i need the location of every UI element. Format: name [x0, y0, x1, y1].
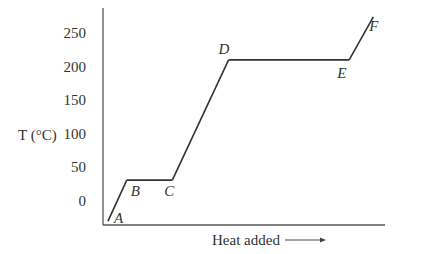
curve-segment-CD — [172, 60, 228, 180]
point-label-B: B — [131, 183, 140, 199]
point-label-D: D — [218, 41, 230, 57]
y-tick-label: 100 — [64, 126, 87, 142]
y-tick-label: 0 — [79, 193, 87, 209]
y-axis-label: T (°C) — [18, 127, 57, 144]
y-tick-label: 150 — [64, 92, 87, 108]
point-label-E: E — [336, 65, 346, 81]
point-label-A: A — [113, 210, 124, 226]
y-tick-label: 200 — [64, 59, 87, 75]
point-label-C: C — [164, 183, 175, 199]
y-tick-label: 250 — [64, 25, 87, 41]
x-axis-label: Heat added — [212, 232, 280, 248]
x-axis-arrow-head — [320, 238, 326, 243]
point-label-F: F — [368, 18, 379, 34]
heating-curve-chart: 050100150200250 T (°C) Heat added ABCDEF — [0, 0, 446, 254]
y-tick-label: 50 — [71, 159, 86, 175]
